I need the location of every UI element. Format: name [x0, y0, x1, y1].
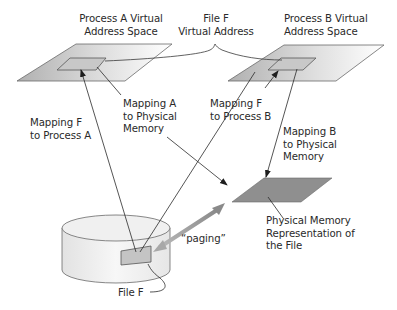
- file-f-label: File F: [118, 287, 144, 300]
- mapping-f-to-a-label: Mapping F to Process A: [30, 117, 91, 142]
- physical-memory-representation-label: Physical Memory Representation of the Fi…: [266, 215, 355, 253]
- process-a-address-space: [17, 44, 172, 81]
- memory-mapped-file-diagram: Process A Virtual Address Space File F V…: [0, 0, 397, 310]
- mapping-a-to-physical-arrow: [167, 137, 227, 185]
- mapping-b-to-physical-label: Mapping B to Physical Memory: [283, 126, 337, 164]
- file-f-virtual-address-label: File F Virtual Address: [166, 13, 266, 38]
- process-a-space-label: Process A Virtual Address Space: [70, 13, 172, 38]
- process-b-address-space: [228, 45, 384, 81]
- paging-label: “paging”: [181, 233, 226, 246]
- mapping-f-to-b-label: Mapping F to Process B: [210, 98, 271, 123]
- process-b-space-label: Process B Virtual Address Space: [284, 13, 368, 38]
- physical-memory-region: [232, 178, 332, 202]
- diagram-canvas: [0, 0, 397, 310]
- mapping-a-to-physical-label: Mapping A to Physical Memory: [123, 98, 177, 136]
